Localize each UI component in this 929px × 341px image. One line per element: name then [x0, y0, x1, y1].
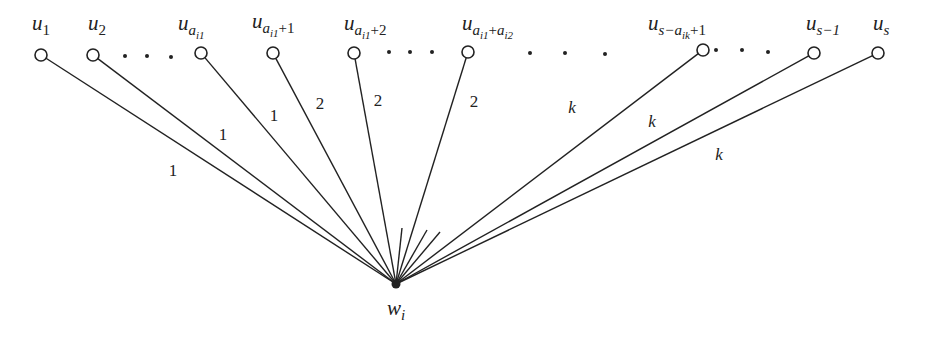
edge-u2 — [98, 59, 396, 284]
vertices — [35, 44, 884, 61]
edge-weight-label: 2 — [470, 92, 479, 111]
edge-weight-label: 2 — [374, 91, 383, 110]
vertex-label-u1: u1 — [32, 11, 50, 38]
vertex-label-u_s: us — [873, 11, 890, 38]
vertex-label-ua_i1: uai1 — [178, 11, 205, 41]
ellipsis-dot — [169, 55, 173, 59]
edge-u1 — [46, 58, 396, 284]
vertex-u2 — [87, 49, 99, 61]
vertex-label-w-i: wi — [387, 296, 405, 323]
vertex-ua_i1_plus_1 — [267, 47, 279, 59]
edge-u_s — [396, 56, 873, 284]
ellipsis-dot — [528, 51, 532, 55]
ellipsis-dot — [123, 54, 127, 58]
ellipsis-dot — [740, 48, 744, 52]
ellipsis-dots — [123, 48, 770, 59]
edge-weight-label: 1 — [169, 161, 178, 180]
edge-stub — [396, 232, 440, 284]
edge-weight-label: k — [715, 145, 723, 164]
vertex-labels: u1u2uai1uai1+1uai1+2uai1+ai2us−aik+1us−1… — [32, 9, 890, 41]
edge-weight-label: k — [568, 98, 576, 117]
vertex-ua_i1_plus_2 — [348, 47, 360, 59]
vertex-u1 — [35, 49, 47, 61]
edge-weight-label: k — [648, 112, 656, 131]
edge-u_s_minus_1 — [396, 56, 809, 284]
vertex-label-ua_i1_plus_1: uai1+1 — [252, 9, 295, 39]
edge-weight-label: 1 — [219, 125, 228, 144]
ellipsis-dot — [563, 51, 567, 55]
ellipsis-dot — [387, 50, 391, 54]
vertex-u_s_minus_a_ik_plus_1 — [697, 44, 709, 56]
center-vertex: wi — [387, 280, 405, 324]
edge-ua_i1_plus_a_i2 — [396, 58, 466, 284]
edge-u_s_minus_a_ik_plus_1 — [396, 54, 698, 284]
vertex-label-ua_i1_plus_2: uai1+2 — [344, 11, 387, 41]
edge-weight-label: 1 — [270, 106, 279, 125]
star-graph-diagram: u1u2uai1uai1+1uai1+2uai1+ai2us−aik+1us−1… — [0, 0, 929, 341]
ellipsis-dot — [766, 50, 770, 54]
vertex-label-ua_i1_plus_a_i2: uai1+ai2 — [462, 11, 514, 41]
vertex-w-i — [392, 280, 401, 289]
ellipsis-dot — [714, 48, 718, 52]
vertex-ua_i1_plus_a_i2 — [462, 46, 474, 58]
vertex-ua_i1 — [195, 47, 207, 59]
edge-weight-label: 2 — [316, 94, 325, 113]
vertex-label-u2: u2 — [88, 11, 106, 38]
vertex-u_s_minus_1 — [808, 47, 820, 59]
ellipsis-dot — [603, 52, 607, 56]
vertex-u_s — [872, 47, 884, 59]
edge-ua_i1 — [205, 58, 396, 284]
ellipsis-dot — [408, 50, 412, 54]
vertex-label-u_s_minus_1: us−1 — [806, 11, 840, 38]
ellipsis-dot — [145, 54, 149, 58]
vertex-label-u_s_minus_a_ik_plus_1: us−aik+1 — [648, 11, 706, 41]
ellipsis-dot — [430, 50, 434, 54]
